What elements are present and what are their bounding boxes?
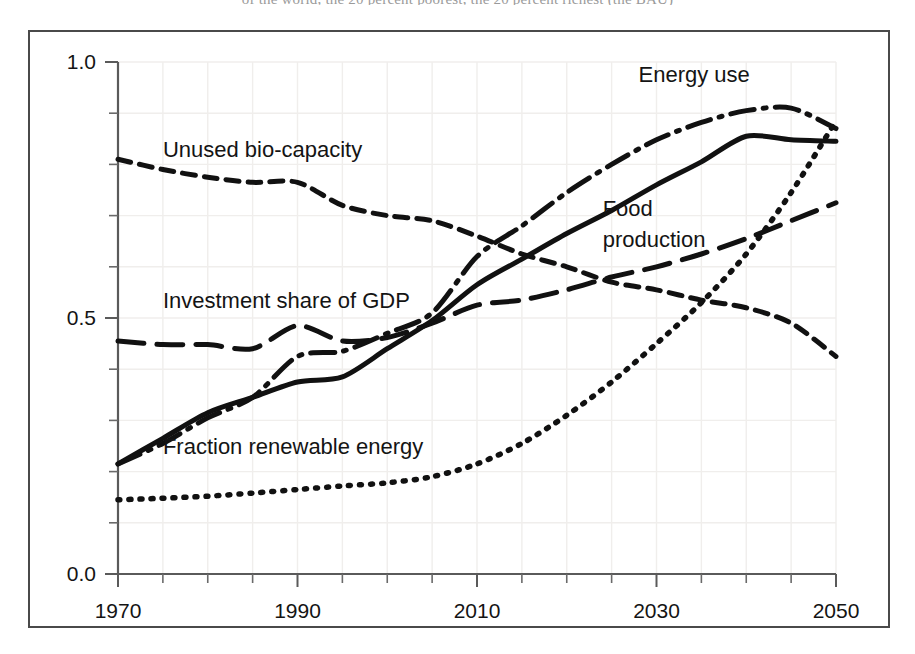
x-tick-label: 1990 [274, 599, 321, 622]
series-label-energy-use: Energy use [639, 62, 750, 87]
line-chart: 0.00.51.019701990201020302050 Unused bio… [30, 32, 888, 626]
series-label-unused-bio-capacity: Unused bio-capacity [163, 137, 362, 162]
figure-frame: 0.00.51.019701990201020302050 Unused bio… [28, 30, 890, 628]
y-tick-label: 1.0 [67, 50, 96, 73]
series-label-fraction-renewable-energy: Fraction renewable energy [163, 434, 423, 459]
x-tick-label: 1970 [95, 599, 142, 622]
x-tick-label: 2010 [454, 599, 501, 622]
figure-root: of the world, the 20 percent poorest, th… [0, 0, 915, 654]
x-tick-label: 2030 [633, 599, 680, 622]
series-label-food-production: Food [603, 196, 653, 221]
series-label-investment-share-of-gdp: Investment share of GDP [163, 288, 410, 313]
y-tick-label: 0.5 [67, 306, 96, 329]
caption-text-sliver: of the world, the 20 percent poorest, th… [0, 0, 915, 5]
series-label-food-production: production [603, 227, 706, 252]
y-tick-label: 0.0 [67, 562, 96, 585]
x-tick-label: 2050 [813, 599, 860, 622]
